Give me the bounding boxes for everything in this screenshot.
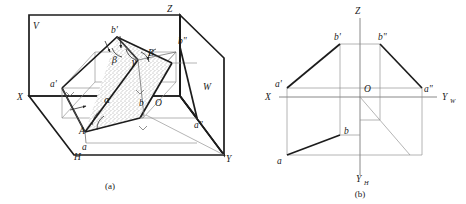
label-b-top-a: b: [139, 98, 144, 108]
panel-b-group: X Z Y W Y H O a' b' b" a" a b (b): [264, 6, 456, 199]
label-origin-b: O: [364, 84, 371, 94]
label-angle-gamma: γ: [131, 57, 137, 67]
projection-figure: V H W X Y Z O A B a' b' a b a" b" α β γ …: [0, 0, 466, 204]
label-h-plane: H: [73, 152, 82, 162]
label-a-side-a: a": [194, 120, 204, 130]
panel-a-group: V H W X Y Z O A B a' b' a b a" b" α β γ …: [16, 4, 233, 191]
label-b-top-b: b: [344, 126, 349, 136]
label-a-top-a: a: [82, 142, 87, 152]
front-view-line-ab: [287, 44, 340, 88]
side-view-construction: [360, 44, 422, 155]
label-point-B: B: [148, 48, 154, 58]
label-w-plane: W: [203, 82, 212, 92]
label-angle-alpha: α: [104, 95, 110, 105]
label-a-top-b: a: [277, 156, 282, 166]
svg-text:H: H: [363, 179, 369, 186]
svg-text:W: W: [450, 97, 456, 104]
label-b-front-a: b': [111, 25, 119, 35]
label-b-side-a: b": [178, 36, 188, 46]
label-y-axis-a: Y: [226, 154, 233, 164]
caption-b: (b): [355, 189, 366, 199]
label-z-axis-b: Z: [355, 6, 361, 16]
label-v-plane: V: [33, 21, 40, 31]
caption-a: (a): [105, 181, 115, 191]
label-x-axis-b: X: [264, 92, 272, 102]
front-view-construction: [287, 44, 360, 155]
label-a-front-b: a': [275, 79, 283, 89]
label-x-axis-a: X: [16, 92, 24, 102]
label-origin-a: O: [155, 98, 162, 108]
label-z-axis-a: Z: [167, 4, 173, 14]
label-a-front-a: a': [50, 79, 58, 89]
yh-45-bisector: [360, 97, 410, 155]
label-angle-beta: β: [111, 55, 117, 65]
label-yw-axis-b: Y W: [442, 92, 456, 104]
oblique-construction-ray: [146, 115, 224, 155]
label-b-side-b: b": [378, 32, 388, 42]
label-point-A: A: [78, 126, 85, 136]
svg-text:Y: Y: [356, 174, 363, 184]
top-view-line-ab: [287, 135, 340, 155]
top-view-construction: [287, 120, 422, 155]
label-a-side-b: a": [424, 84, 434, 94]
figure-root: V H W X Y Z O A B a' b' a b a" b" α β γ …: [0, 0, 466, 204]
label-yh-axis-b: Y H: [356, 174, 369, 186]
svg-text:Y: Y: [442, 92, 449, 102]
side-view-line-ab: [380, 44, 422, 88]
label-b-front-b: b': [334, 32, 342, 42]
